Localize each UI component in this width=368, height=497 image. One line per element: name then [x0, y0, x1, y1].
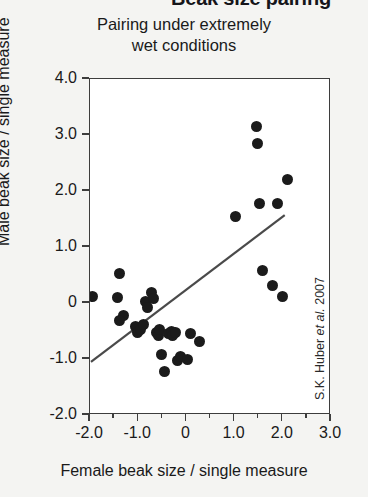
y-axis-tick-label: 0 — [0, 294, 77, 310]
data-point — [230, 211, 241, 222]
x-axis-minor-tick — [209, 414, 210, 418]
credit-prefix: S.K. Huber — [313, 335, 327, 400]
data-point — [159, 366, 170, 377]
x-axis-minor-tick — [112, 414, 113, 418]
y-axis-tick — [82, 301, 89, 302]
source-credit: S.K. Huber et al. 2007 — [313, 277, 327, 400]
data-point — [251, 121, 262, 132]
data-point — [194, 336, 205, 347]
y-axis-tick-label: -1.0 — [0, 350, 77, 366]
data-point — [254, 198, 265, 209]
x-axis-tick — [281, 414, 282, 421]
plot-area — [89, 78, 330, 414]
y-axis-label: Male beak size / single measure — [0, 0, 13, 246]
data-point — [182, 354, 193, 365]
x-axis-tick — [137, 414, 138, 421]
figure-header-strip: Beak size pairing — [0, 0, 368, 14]
figure-header-title: Beak size pairing — [171, 0, 331, 10]
plot-inner — [90, 79, 329, 413]
x-axis-tick-label: 3.0 — [300, 425, 360, 441]
y-axis-tick-label: -2.0 — [0, 406, 77, 422]
data-point — [277, 291, 288, 302]
beak-size-pairing-figure: Beak size pairing Pairing under extremel… — [0, 0, 368, 497]
x-axis-minor-tick — [161, 414, 162, 418]
x-axis-tick — [88, 414, 89, 421]
x-axis-minor-tick — [305, 414, 306, 418]
x-axis-tick — [233, 414, 234, 421]
y-axis-tick — [82, 133, 89, 134]
data-point — [267, 280, 278, 291]
x-axis-tick — [329, 414, 330, 421]
data-point — [257, 265, 268, 276]
data-point — [156, 349, 167, 360]
data-point — [170, 327, 181, 338]
credit-italic: et al. — [313, 308, 327, 335]
chart-subtitle-line-2: wet conditions — [0, 35, 368, 56]
x-axis-minor-tick — [257, 414, 258, 418]
chart-subtitle: Pairing under extremely wet conditions — [0, 14, 368, 56]
credit-suffix: 2007 — [313, 277, 327, 308]
chart-subtitle-line-1: Pairing under extremely — [0, 14, 368, 35]
y-axis-tick — [82, 245, 89, 246]
x-axis-label: Female beak size / single measure — [0, 462, 368, 480]
y-axis-tick — [82, 357, 89, 358]
regression-line — [90, 79, 329, 413]
x-axis-tick — [185, 414, 186, 421]
y-axis-tick — [82, 77, 89, 78]
y-axis-tick — [82, 189, 89, 190]
